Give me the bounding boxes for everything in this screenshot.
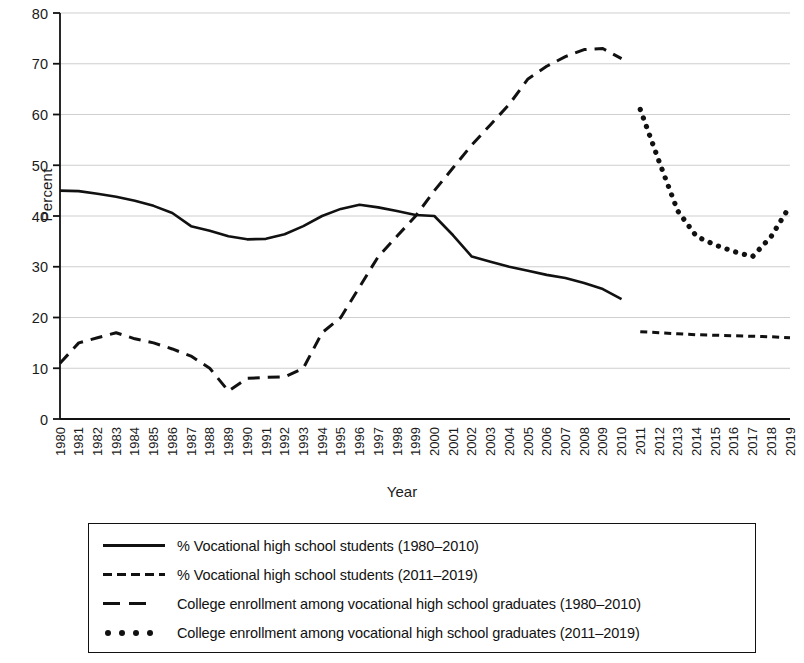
y-tick-label-0: 0 [40,412,48,428]
x-tick-label-1994: 1994 [315,427,330,456]
x-tick-label-2002: 2002 [464,427,479,456]
x-tick-label-2014: 2014 [689,427,704,456]
legend-swatch-solid [103,539,165,553]
legend-label: % Vocational high school students (2011–… [177,567,478,583]
y-tick-label-70: 70 [32,56,48,72]
legend-swatch-segment [103,602,120,606]
x-tick-label-2003: 2003 [483,427,498,456]
legend-swatch-segment [145,573,154,577]
data-series-group [60,49,790,392]
x-tick-label-2019: 2019 [783,427,798,456]
x-tick-label-1980: 1980 [53,427,68,456]
chart-figure: 01020304050607080 1980198119821983198419… [0,0,804,663]
legend-swatch-segment [147,630,153,636]
legend-swatch-segment [103,573,112,577]
legend-label: % Vocational high school students (1980–… [177,538,479,554]
legend-swatch-short-dash [103,568,165,582]
legend-swatch-segment [119,630,125,636]
x-tick-label-2012: 2012 [652,427,667,456]
legend-item-vocational-students-2011-2019: % Vocational high school students (2011–… [89,560,755,589]
legend-swatch-segment [117,573,126,577]
y-tick-label-30: 30 [32,259,48,275]
x-tick-label-2005: 2005 [521,427,536,456]
x-tick-label-2016: 2016 [726,427,741,456]
x-tick-label-1985: 1985 [146,427,161,456]
x-tick-label-1996: 1996 [352,427,367,456]
x-tick-label-1986: 1986 [165,427,180,456]
x-tick-label-2008: 2008 [577,427,592,456]
x-tick-label-1982: 1982 [90,427,105,456]
chart-legend: % Vocational high school students (1980–… [88,523,756,653]
series-line-3 [640,109,790,256]
x-tick-label-2015: 2015 [708,427,723,456]
x-tick-label-1988: 1988 [202,427,217,456]
series-line-2 [60,49,622,392]
x-tick-label-2009: 2009 [595,427,610,456]
x-tick-label-1981: 1981 [71,427,86,456]
x-tick-label-1989: 1989 [221,427,236,456]
x-tick-label-1987: 1987 [184,427,199,456]
x-axis-ticks: 1980198119821983198419851986198719881989… [53,427,798,456]
legend-swatch-segment [133,630,139,636]
gridlines-group [60,13,790,368]
y-tick-label-80: 80 [32,6,48,22]
legend-swatch-long-dash [103,597,165,611]
x-tick-label-1990: 1990 [240,427,255,456]
legend-item-college-enrollment-1980-2010: College enrollment among vocational high… [89,589,755,618]
legend-item-college-enrollment-2011-2019: College enrollment among vocational high… [89,618,755,647]
legend-label: College enrollment among vocational high… [177,596,641,612]
x-tick-label-1991: 1991 [259,427,274,456]
x-tick-label-1999: 1999 [408,427,423,456]
x-axis-label: Year [0,483,804,500]
x-tick-label-2000: 2000 [427,427,442,456]
legend-swatch-segment [129,602,146,606]
y-tick-label-20: 20 [32,310,48,326]
x-tick-label-2011: 2011 [633,427,648,455]
legend-swatch-dotted [103,626,165,640]
y-tick-label-60: 60 [32,107,48,123]
series-line-1 [640,332,790,338]
x-tick-label-1984: 1984 [127,427,142,456]
legend-swatch-segment [103,544,165,547]
x-tick-label-1998: 1998 [390,427,405,456]
x-tick-label-2001: 2001 [446,427,461,456]
legend-swatch-segment [131,573,140,577]
x-tick-label-2007: 2007 [558,427,573,456]
legend-swatch-segment [105,630,111,636]
plot-area: 01020304050607080 1980198119821983198419… [0,0,804,520]
x-tick-label-2018: 2018 [764,427,779,456]
y-tick-label-10: 10 [32,361,48,377]
y-axis-label: Percent [38,135,55,255]
legend-swatch-segment [159,573,165,577]
x-tick-label-1993: 1993 [296,427,311,456]
x-tick-label-2004: 2004 [502,427,517,456]
line-chart-svg: 01020304050607080 1980198119821983198419… [0,0,804,520]
x-tick-label-1992: 1992 [277,427,292,456]
x-tick-label-2006: 2006 [539,427,554,456]
x-tick-label-1995: 1995 [333,427,348,456]
x-tick-label-2013: 2013 [670,427,685,456]
x-tick-label-2017: 2017 [745,427,760,456]
x-tick-label-1983: 1983 [109,427,124,456]
legend-label: College enrollment among vocational high… [177,625,640,641]
legend-item-vocational-students-1980-2010: % Vocational high school students (1980–… [89,531,755,560]
series-line-0 [60,191,622,300]
x-tick-label-1997: 1997 [371,427,386,456]
x-tick-label-2010: 2010 [614,427,629,456]
